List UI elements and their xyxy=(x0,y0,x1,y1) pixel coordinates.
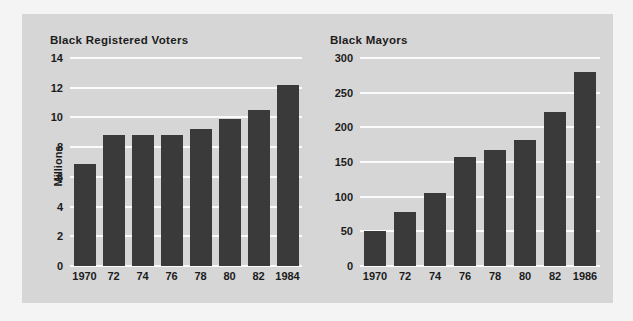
gridline xyxy=(360,57,600,59)
bar xyxy=(424,193,446,266)
y-axis-tick-mayors: 300 xyxy=(335,53,353,64)
y-axis-tick-mayors: 250 xyxy=(335,87,353,98)
gridline xyxy=(360,92,600,94)
x-axis-tick-voters: 72 xyxy=(107,271,119,282)
x-axis-tick-voters: 74 xyxy=(136,271,148,282)
bar xyxy=(103,135,125,266)
chart-black-registered-voters: Black Registered Voters Millions 0246810… xyxy=(22,14,322,303)
y-axis-tick-voters: 10 xyxy=(51,112,63,123)
y-axis-tick-voters: 2 xyxy=(57,231,63,242)
chart-title-mayors: Black Mayors xyxy=(330,34,408,46)
bar xyxy=(74,164,96,267)
bar xyxy=(514,140,536,266)
chart-black-mayors: Black Mayors 050100150200250300197072747… xyxy=(322,14,613,303)
y-axis-tick-mayors: 100 xyxy=(335,191,353,202)
y-axis-tick-voters: 8 xyxy=(57,142,63,153)
x-axis-tick-mayors: 82 xyxy=(549,271,561,282)
y-axis-tick-mayors: 0 xyxy=(347,261,353,272)
x-axis-tick-voters: 82 xyxy=(252,271,264,282)
chart-panel: Black Registered Voters Millions 0246810… xyxy=(22,14,613,303)
bar xyxy=(219,119,241,266)
x-axis-tick-mayors: 1970 xyxy=(363,271,387,282)
x-axis-tick-mayors: 76 xyxy=(459,271,471,282)
y-axis-tick-voters: 4 xyxy=(57,201,63,212)
y-axis-tick-voters: 12 xyxy=(51,82,63,93)
bar xyxy=(248,110,270,266)
gridline xyxy=(70,57,302,59)
bar xyxy=(544,112,566,266)
y-axis-tick-voters: 14 xyxy=(51,53,63,64)
y-axis-tick-mayors: 150 xyxy=(335,157,353,168)
y-axis-tick-voters: 6 xyxy=(57,171,63,182)
bar xyxy=(574,72,596,266)
x-axis-tick-voters: 78 xyxy=(194,271,206,282)
bar xyxy=(454,157,476,266)
bar xyxy=(394,212,416,266)
plot-area-mayors: 05010015020025030019707274767880821986 xyxy=(360,58,600,266)
x-axis-tick-voters: 80 xyxy=(223,271,235,282)
x-axis-tick-voters: 1970 xyxy=(72,271,96,282)
bar xyxy=(132,135,154,266)
bar xyxy=(161,135,183,266)
chart-title-voters: Black Registered Voters xyxy=(50,34,188,46)
bar xyxy=(190,129,212,266)
gridline xyxy=(70,87,302,89)
x-axis-tick-voters: 76 xyxy=(165,271,177,282)
figure-canvas: Black Registered Voters Millions 0246810… xyxy=(0,0,633,321)
x-axis-tick-mayors: 74 xyxy=(429,271,441,282)
bar xyxy=(484,150,506,266)
x-axis-tick-mayors: 72 xyxy=(399,271,411,282)
plot-area-voters: Millions 0246810121419707274767880821984 xyxy=(70,58,302,266)
y-axis-tick-mayors: 200 xyxy=(335,122,353,133)
x-axis-tick-voters: 1984 xyxy=(275,271,299,282)
bar xyxy=(364,231,386,266)
bar xyxy=(277,85,299,266)
x-axis-tick-mayors: 80 xyxy=(519,271,531,282)
x-axis-tick-mayors: 1986 xyxy=(573,271,597,282)
y-axis-tick-voters: 0 xyxy=(57,261,63,272)
y-axis-tick-mayors: 50 xyxy=(341,226,353,237)
x-axis-tick-mayors: 78 xyxy=(489,271,501,282)
